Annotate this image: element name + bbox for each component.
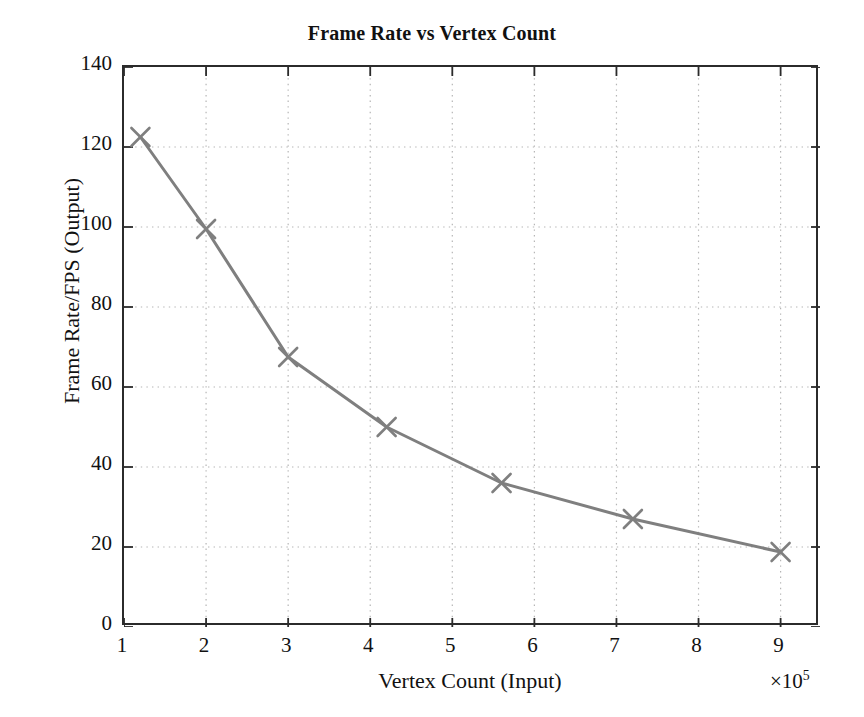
y-tick-label: 60 [42,371,112,396]
chart-figure: Frame Rate vs Vertex Count Frame Rate/FP… [0,0,864,717]
axis-ticks [124,67,820,627]
x-tick-label: 9 [759,633,799,658]
x-tick-label: 6 [512,633,552,658]
data-series-line [140,137,780,552]
data-point-marker [279,348,297,366]
y-tick-label: 100 [42,211,112,236]
x-tick-label: 5 [430,633,470,658]
x-axis-exponent-label: ×105 [770,668,810,694]
series-line [140,137,780,552]
grid-lines [124,67,820,627]
data-point-marker [493,474,511,492]
x-tick-label: 1 [102,633,142,658]
plot-canvas [124,67,820,627]
y-tick-label: 140 [42,51,112,76]
y-tick-label: 120 [42,131,112,156]
x-exponent-base: ×10 [770,669,803,693]
x-tick-label: 7 [594,633,634,658]
x-axis-label: Vertex Count (Input) [122,668,818,694]
data-point-marker [131,128,149,146]
y-tick-label: 20 [42,531,112,556]
y-tick-label: 40 [42,451,112,476]
data-point-marker [378,418,396,436]
x-tick-label: 8 [677,633,717,658]
chart-title: Frame Rate vs Vertex Count [0,22,864,45]
plot-area [122,65,818,625]
data-point-markers [131,128,789,561]
y-tick-label: 80 [42,291,112,316]
x-tick-label: 3 [266,633,306,658]
x-tick-label: 2 [184,633,224,658]
x-exponent-power: 5 [803,668,810,683]
x-tick-label: 4 [348,633,388,658]
